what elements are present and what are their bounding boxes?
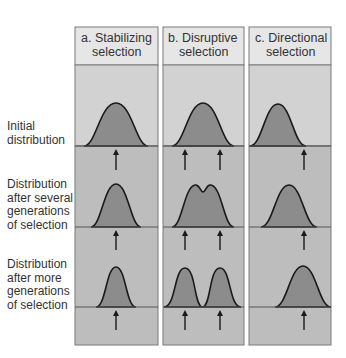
panel-title-line1: c. Directional xyxy=(255,31,327,45)
panel-title-disruptive: b. Disruptive selection xyxy=(168,32,237,59)
panel-stabilizing xyxy=(75,27,158,345)
panel-disruptive xyxy=(163,27,244,345)
panel-title-line2: selection xyxy=(81,46,152,60)
panel-title-directional: c. Directional selection xyxy=(255,32,327,59)
row-label-line: after more xyxy=(7,272,70,286)
panel-title-line1: b. Disruptive xyxy=(168,31,237,45)
panel-title-line2: selection xyxy=(168,46,237,60)
row-label-several-generations: Distribution after several generations o… xyxy=(7,178,73,232)
panel-title-line2: selection xyxy=(255,46,327,60)
row-label-line: of selection xyxy=(7,219,73,233)
panel-directional xyxy=(249,27,331,345)
row-label-line: of selection xyxy=(7,299,70,313)
row-label-line: generations xyxy=(7,285,70,299)
row-label-more-generations: Distribution after more generations of s… xyxy=(7,258,70,312)
panel-title-line1: a. Stabilizing xyxy=(81,31,152,45)
row-label-line: generations xyxy=(7,205,73,219)
row-label-line: Distribution xyxy=(7,258,70,272)
row-label-line: Initial xyxy=(7,120,65,134)
row-label-initial: Initial distribution xyxy=(7,120,65,147)
row-label-line: after several xyxy=(7,192,73,206)
row-label-line: Distribution xyxy=(7,178,73,192)
row-label-line: distribution xyxy=(7,134,65,148)
panel-title-stabilizing: a. Stabilizing selection xyxy=(81,32,152,59)
